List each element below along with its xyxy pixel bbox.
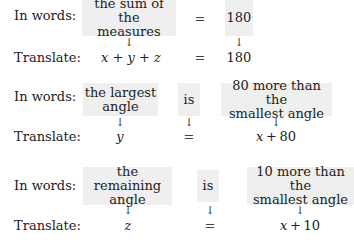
phrase-box-10-more: 10 more than the smallest angle	[247, 167, 354, 205]
translation-equals-sign: =	[179, 129, 199, 144]
down-arrow-icon: ↓	[200, 205, 220, 216]
phrase-box-remaining-angle: the remaining angle	[83, 167, 172, 205]
down-arrow-icon: ↓	[229, 37, 249, 48]
in-words-label: In words:	[14, 8, 76, 23]
down-arrow-icon: ↓	[119, 37, 139, 48]
translation-left: y	[110, 129, 130, 144]
translation-right: x + 80	[246, 129, 306, 144]
phrase-box-is: is	[197, 170, 219, 202]
down-arrow-icon: ↓	[110, 117, 130, 128]
phrase-box-80-more: 80 more than the smallest angle	[221, 83, 332, 116]
translation-left: z	[118, 218, 138, 233]
translation-left: x + y + z	[96, 50, 166, 65]
phrase-box-largest-angle: the largest angle	[83, 83, 158, 116]
down-arrow-icon: ↓	[118, 205, 138, 216]
phrase-box-is: is	[178, 83, 200, 116]
in-words-label: In words:	[14, 89, 76, 104]
in-words-label: In words:	[14, 178, 76, 193]
translate-label: Translate:	[14, 129, 81, 144]
translation-equals-sign: =	[200, 218, 220, 233]
translate-label: Translate:	[14, 50, 81, 65]
phrase-box-sum-of-measures: the sum of the measures	[82, 0, 176, 36]
translation-equals-sign: =	[190, 50, 210, 65]
words-equals-sign: =	[190, 11, 210, 26]
translation-right: x + 10	[270, 218, 330, 233]
down-arrow-icon: ↓	[290, 205, 310, 216]
down-arrow-icon: ↓	[179, 117, 199, 128]
phrase-box-180: 180	[225, 0, 253, 36]
translate-label: Translate:	[14, 218, 81, 233]
down-arrow-icon: ↓	[266, 117, 286, 128]
translation-right: 180	[225, 50, 253, 65]
